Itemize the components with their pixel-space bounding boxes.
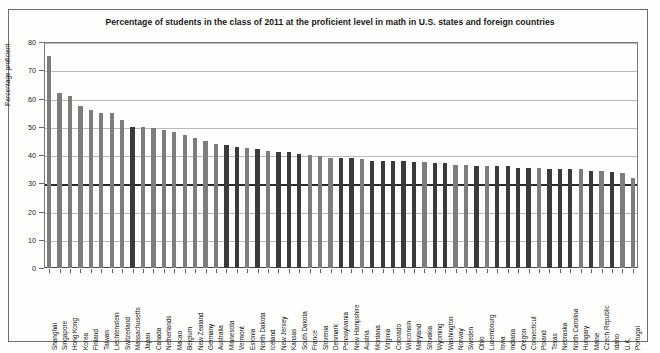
- x-tick-label: Taiwan: [104, 330, 110, 350]
- x-tick-mark: [258, 269, 259, 273]
- bar: [547, 169, 551, 268]
- bar: [308, 155, 312, 268]
- y-axis-ticks: 01020304050607080: [0, 42, 44, 269]
- bar: [224, 145, 228, 268]
- x-tick-label: Pennsylvania: [343, 312, 349, 350]
- bar: [287, 152, 291, 268]
- chart-title: Percentage of students in the class of 2…: [0, 17, 660, 27]
- y-tick-label: 80: [6, 38, 36, 47]
- x-tick-label: Hungary: [583, 326, 589, 350]
- x-tick-mark: [164, 269, 165, 273]
- x-tick-mark: [424, 269, 425, 273]
- x-tick-mark: [185, 269, 186, 273]
- bar: [266, 151, 270, 268]
- bar: [620, 173, 624, 268]
- x-tick-mark: [278, 269, 279, 273]
- x-tick-label: France: [312, 330, 318, 350]
- x-tick-label: Maryland: [416, 324, 422, 350]
- bar: [443, 163, 447, 268]
- x-tick-mark: [383, 269, 384, 273]
- x-tick-label: Switzerland: [125, 317, 131, 350]
- x-tick-label: Kansas: [291, 329, 297, 350]
- x-tick-label: Netherlands: [166, 316, 172, 350]
- x-tick-mark: [372, 269, 373, 273]
- x-tick-mark: [112, 269, 113, 273]
- x-tick-label: Luxembourg: [489, 314, 495, 350]
- x-tick-mark: [268, 269, 269, 273]
- bar: [401, 161, 405, 268]
- x-tick-label: Montana: [375, 325, 381, 350]
- x-tick-mark: [80, 269, 81, 273]
- x-tick-mark: [289, 269, 290, 273]
- x-tick-mark: [497, 269, 498, 273]
- x-tick-mark: [529, 269, 530, 273]
- bar: [120, 120, 124, 268]
- x-tick-mark: [445, 269, 446, 273]
- bar: [526, 168, 530, 268]
- bars-container: [44, 42, 638, 268]
- bar: [412, 162, 416, 268]
- x-tick-mark: [570, 269, 571, 273]
- x-tick-mark: [299, 269, 300, 273]
- bar: [433, 163, 437, 268]
- x-tick-label: Estonia: [250, 329, 256, 350]
- x-tick-label: Oregon: [521, 329, 527, 350]
- x-tick-label: Connecticut: [531, 316, 537, 350]
- x-tick-label: Sweden: [468, 327, 474, 350]
- bar: [506, 166, 510, 268]
- x-axis-ticks: [44, 269, 638, 275]
- x-tick-label: Norway: [458, 328, 464, 350]
- x-tick-mark: [622, 269, 623, 273]
- x-tick-mark: [206, 269, 207, 273]
- x-tick-mark: [143, 269, 144, 273]
- bar: [151, 128, 155, 268]
- x-tick-mark: [508, 269, 509, 273]
- x-tick-label: Finland: [93, 329, 99, 350]
- x-tick-mark: [476, 269, 477, 273]
- x-tick-mark: [174, 269, 175, 273]
- bar: [89, 110, 93, 268]
- x-tick-label: Ohio: [479, 337, 485, 351]
- bar: [381, 161, 385, 268]
- x-tick-mark: [560, 269, 561, 273]
- bar: [276, 152, 280, 268]
- x-tick-mark: [518, 269, 519, 273]
- x-tick-mark: [602, 269, 603, 273]
- x-tick-label: Wisconsin: [406, 321, 412, 350]
- y-tick-label: 60: [6, 94, 36, 103]
- x-tick-mark: [591, 269, 592, 273]
- bar: [631, 178, 635, 268]
- x-tick-label: North Carolina: [573, 309, 579, 350]
- x-tick-mark: [414, 269, 415, 273]
- bar: [558, 169, 562, 268]
- x-tick-label: Japan: [145, 333, 151, 350]
- x-tick-mark: [393, 269, 394, 273]
- bar: [57, 93, 61, 268]
- bar: [339, 158, 343, 268]
- y-tick-label: 20: [6, 207, 36, 216]
- y-tick-label: 50: [6, 122, 36, 131]
- x-tick-mark: [216, 269, 217, 273]
- x-tick-mark: [351, 269, 352, 273]
- x-tick-label: Liechtenstein: [114, 312, 120, 350]
- y-tick-label: 70: [6, 66, 36, 75]
- x-tick-label: Iowa: [500, 337, 506, 351]
- bar: [297, 154, 301, 268]
- x-tick-label: Iceland: [270, 329, 276, 350]
- x-tick-label: Austria: [364, 330, 370, 350]
- x-tick-label: Massachusetts: [135, 307, 141, 350]
- x-tick-label: Nebraska: [562, 323, 568, 350]
- x-tick-label: Australia: [218, 325, 224, 350]
- bar: [235, 147, 239, 268]
- chart-page: Percentage of students in the class of 2…: [0, 0, 660, 353]
- bar: [391, 161, 395, 268]
- x-tick-label: Korea: [83, 333, 89, 350]
- x-tick-mark: [539, 269, 540, 273]
- bar: [130, 127, 134, 268]
- bar: [162, 130, 166, 268]
- x-tick-mark: [101, 269, 102, 273]
- x-tick-mark: [122, 269, 123, 273]
- x-tick-mark: [70, 269, 71, 273]
- x-tick-label: Poland: [541, 330, 547, 350]
- bar: [110, 113, 114, 268]
